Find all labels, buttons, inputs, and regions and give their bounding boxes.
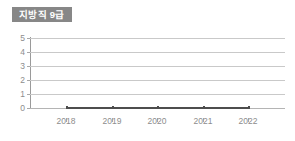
y-axis-tick-label: 4 xyxy=(12,48,25,56)
y-axis-tick-label: 3 xyxy=(12,62,25,70)
y-axis-tick-label: 1 xyxy=(12,90,25,98)
y-axis-tick-label: 0 xyxy=(12,104,25,112)
y-axis-tick-label: 2 xyxy=(12,76,25,84)
x-axis-tick-label: 2022 xyxy=(228,116,268,126)
y-axis-tick-label: 5 xyxy=(12,34,25,42)
x-axis-tick-label: 2021 xyxy=(183,116,223,126)
gridline-1 xyxy=(30,94,285,95)
chart-title-badge: 지방직 9급 xyxy=(12,7,72,22)
gridline-3 xyxy=(30,66,285,67)
gridline-2 xyxy=(30,80,285,81)
gridline-4 xyxy=(30,52,285,53)
x-axis-tick-label: 2020 xyxy=(137,116,177,126)
y-axis-labels: 5 4 3 2 1 0 xyxy=(12,28,25,141)
x-axis-tick-label: 2018 xyxy=(46,116,86,126)
data-point-2022 xyxy=(248,106,250,109)
x-axis-labels: 2018 2019 2020 2021 2022 xyxy=(30,116,285,132)
data-point-2020 xyxy=(157,106,159,109)
data-point-2018 xyxy=(66,106,68,109)
line-chart: 5 4 3 2 1 0 2018 20 xyxy=(0,28,295,141)
data-point-2021 xyxy=(203,106,205,109)
plot-area xyxy=(30,38,285,118)
gridline-5 xyxy=(30,38,285,39)
x-axis-tick-label: 2019 xyxy=(92,116,132,126)
data-point-2019 xyxy=(112,106,114,109)
